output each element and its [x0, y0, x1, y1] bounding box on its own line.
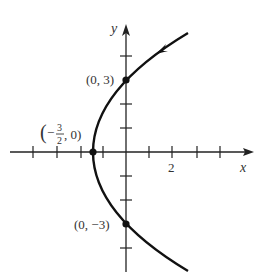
point-label-bottom: (0, −3) — [74, 217, 110, 232]
direction-arrow-icon — [156, 44, 168, 54]
parabola-chart: y x 2 (0, 3) (0, −3) ( − 3 2 , 0) — [0, 0, 260, 274]
x-axis — [10, 146, 254, 158]
point-0-neg3 — [122, 220, 129, 227]
x-tick-label-2: 2 — [168, 160, 175, 175]
svg-text:3: 3 — [57, 122, 62, 133]
x-axis-label: x — [239, 160, 247, 175]
point-0-3 — [122, 76, 129, 83]
point-label-vertex: ( − 3 2 , 0) — [40, 121, 81, 146]
svg-text:(: ( — [40, 121, 47, 144]
svg-text:2: 2 — [57, 135, 62, 146]
svg-text:−: − — [47, 125, 54, 140]
point-vertex — [89, 148, 96, 155]
svg-text:, 0): , 0) — [64, 127, 81, 142]
point-label-top: (0, 3) — [86, 72, 114, 87]
y-axis — [120, 24, 132, 272]
y-axis-label: y — [109, 21, 118, 36]
